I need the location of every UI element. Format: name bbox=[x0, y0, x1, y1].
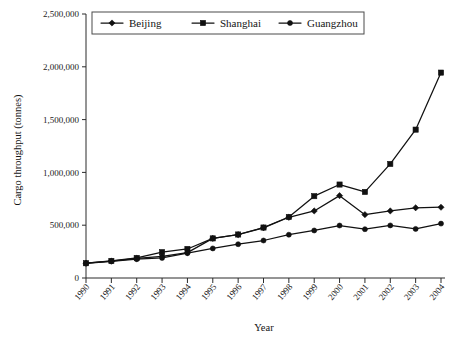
data-point bbox=[362, 189, 367, 194]
x-tick-label: 1998 bbox=[275, 281, 295, 302]
data-point bbox=[413, 226, 418, 231]
x-tick-label: 1995 bbox=[199, 281, 219, 302]
data-point bbox=[210, 246, 215, 251]
series-shanghai bbox=[83, 70, 443, 266]
data-point bbox=[362, 227, 367, 232]
x-tick-label: 1999 bbox=[301, 281, 321, 302]
chart-container: 0500,0001,000,0001,500,0002,000,0002,500… bbox=[0, 0, 465, 338]
data-point bbox=[261, 238, 266, 243]
data-point bbox=[388, 223, 393, 228]
data-point bbox=[286, 214, 291, 219]
data-point bbox=[337, 223, 342, 228]
x-tick-label: 2001 bbox=[351, 282, 370, 302]
data-point bbox=[312, 228, 317, 233]
legend-label: Guangzhou bbox=[307, 17, 358, 29]
series-plot-area bbox=[83, 70, 444, 266]
data-point bbox=[312, 194, 317, 199]
x-tick-label: 1991 bbox=[98, 282, 117, 302]
y-tick-label: 1,000,000 bbox=[43, 168, 80, 178]
data-point bbox=[413, 205, 419, 211]
x-axis: 1990199119921993199419951996199719981999… bbox=[72, 278, 447, 302]
x-tick-label: 2000 bbox=[326, 281, 346, 302]
circle-marker-icon bbox=[288, 21, 293, 26]
x-axis-title: Year bbox=[254, 322, 274, 333]
y-tick-label: 500,000 bbox=[50, 220, 80, 230]
data-point bbox=[185, 251, 190, 256]
data-point bbox=[286, 232, 291, 237]
legend-label: Beijing bbox=[129, 17, 162, 29]
x-tick-label: 1996 bbox=[224, 281, 244, 302]
y-tick-label: 2,000,000 bbox=[43, 62, 80, 72]
y-tick-label: 1,500,000 bbox=[43, 115, 80, 125]
y-axis-title: Cargo throughput (tonnes) bbox=[12, 94, 24, 206]
y-tick-label: 0 bbox=[75, 273, 80, 283]
line-chart: 0500,0001,000,0001,500,0002,000,0002,500… bbox=[0, 0, 465, 338]
data-point bbox=[210, 236, 215, 241]
legend-label: Shanghai bbox=[220, 17, 261, 29]
data-point bbox=[261, 225, 266, 230]
square-marker-icon bbox=[200, 20, 205, 25]
data-point bbox=[311, 208, 317, 214]
data-point bbox=[438, 70, 443, 75]
data-point bbox=[438, 204, 444, 210]
x-tick-label: 1992 bbox=[123, 282, 142, 302]
data-point bbox=[439, 221, 444, 226]
series-line-shanghai bbox=[86, 73, 441, 264]
x-tick-label: 1994 bbox=[174, 281, 194, 302]
x-tick-label: 2002 bbox=[377, 282, 396, 302]
x-tick-label: 2003 bbox=[402, 281, 422, 302]
data-point bbox=[337, 182, 342, 187]
y-tick-label: 2,500,000 bbox=[43, 9, 80, 19]
x-tick-label: 1993 bbox=[148, 281, 168, 302]
data-point bbox=[388, 161, 393, 166]
x-tick-label: 1990 bbox=[72, 281, 92, 302]
data-point bbox=[84, 261, 89, 266]
x-tick-label: 2004 bbox=[427, 281, 447, 302]
x-tick-label: 1997 bbox=[250, 281, 270, 302]
data-point bbox=[109, 259, 114, 264]
data-point bbox=[387, 208, 393, 214]
data-point bbox=[134, 257, 139, 262]
chart-legend: BeijingShanghaiGuangzhou bbox=[92, 12, 364, 34]
data-point bbox=[159, 250, 164, 255]
data-point bbox=[236, 232, 241, 237]
data-point bbox=[236, 242, 241, 247]
data-point bbox=[413, 127, 418, 132]
data-point bbox=[160, 255, 165, 260]
y-axis: 0500,0001,000,0001,500,0002,000,0002,500… bbox=[43, 9, 86, 283]
